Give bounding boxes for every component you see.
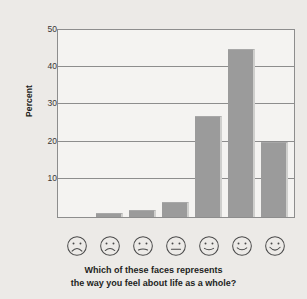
bars-layer [58,30,294,217]
bar-face-7[interactable] [261,142,288,217]
bar-face-6[interactable] [228,49,255,217]
x-tick-3 [129,233,156,259]
y-axis-title: Percent [24,66,34,136]
bar-slot-7 [261,30,288,217]
caption-line-2: the way you feel about life as a whole? [0,277,307,290]
face-slightly-sad-icon [132,235,154,257]
bar-slot-3 [129,30,156,217]
face-slightly-happy-icon [198,235,220,257]
face-happy-icon [231,235,253,257]
bar-face-2[interactable] [96,213,123,217]
face-neutral-icon [165,235,187,257]
x-tick-6 [228,233,255,259]
face-very-happy-icon [264,235,286,257]
face-very-sad-icon [66,235,88,257]
x-tick-7 [261,233,288,259]
chart-figure: 50 40 30 20 10 Percent [0,0,307,299]
bar-face-3[interactable] [129,210,156,217]
face-sad-icon [99,235,121,257]
caption-line-1: Which of these faces represents [0,264,307,277]
x-tick-2 [96,233,123,259]
x-tick-1 [63,233,90,259]
x-axis-face-labels [58,233,294,259]
y-tick-label-40: 40 [33,61,57,71]
chart-caption: Which of these faces represents the way … [0,264,307,289]
y-tick-label-50: 50 [33,24,57,34]
y-tick-label-10: 10 [33,173,57,183]
bar-slot-6 [228,30,255,217]
bar-face-4[interactable] [162,202,189,217]
bar-face-5[interactable] [195,116,222,217]
x-tick-5 [195,233,222,259]
bar-slot-1 [63,30,90,217]
bar-slot-4 [162,30,189,217]
bar-slot-5 [195,30,222,217]
bar-slot-2 [96,30,123,217]
y-tick-label-30: 30 [33,98,57,108]
y-tick-label-20: 20 [33,136,57,146]
x-tick-4 [162,233,189,259]
